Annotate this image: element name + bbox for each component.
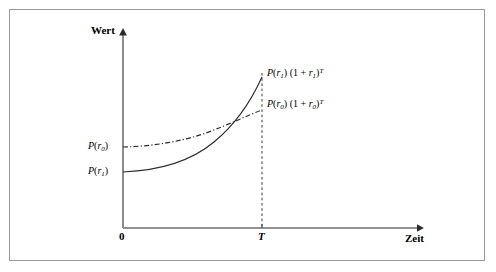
y-label-lower-close: ) [105,165,108,176]
curve-higher-rate [123,77,262,172]
y-label-upper-close: ) [105,140,108,151]
y-axis-label-p-r1: P(r1) [88,166,108,178]
curve-lower-rate [123,110,262,147]
curve-upper-one: 1 [293,67,298,78]
curve-upper-exp: T [319,67,323,75]
curve-upper-plus: + [301,67,307,78]
curve-label-lower-rate: P(r0) (1 + r0)T [267,99,323,111]
curve-lower-exp: T [319,98,323,106]
chart-figure: Wert Zeit 0 T P(r0) P(r1) P(r1) (1 + r1)… [0,0,496,272]
curve-lower-one: 1 [293,98,298,109]
x-axis-tick-label-origin: 0 [119,231,125,242]
x-axis-title: Zeit [405,233,424,244]
curve-lower-plus: + [301,98,307,109]
y-axis-label-p-r0: P(r0) [88,141,108,153]
y-axis-title: Wert [91,25,115,36]
curve-label-higher-rate: P(r1) (1 + r1)T [267,68,323,80]
x-axis-tick-label-T: T [258,231,265,242]
